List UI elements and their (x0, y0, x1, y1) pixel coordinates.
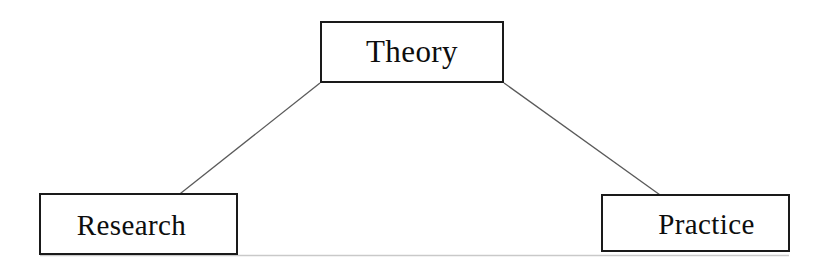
node-practice-label: Practice (658, 210, 755, 239)
diagram-canvas: Theory Research Practice (0, 0, 826, 270)
node-research[interactable]: Research (39, 193, 238, 255)
node-research-label: Research (77, 211, 186, 240)
connector-theory-practice (504, 83, 662, 196)
node-theory[interactable]: Theory (320, 21, 504, 83)
node-practice[interactable]: Practice (601, 194, 790, 252)
node-theory-label: Theory (366, 36, 458, 67)
connector-theory-research (179, 83, 321, 195)
